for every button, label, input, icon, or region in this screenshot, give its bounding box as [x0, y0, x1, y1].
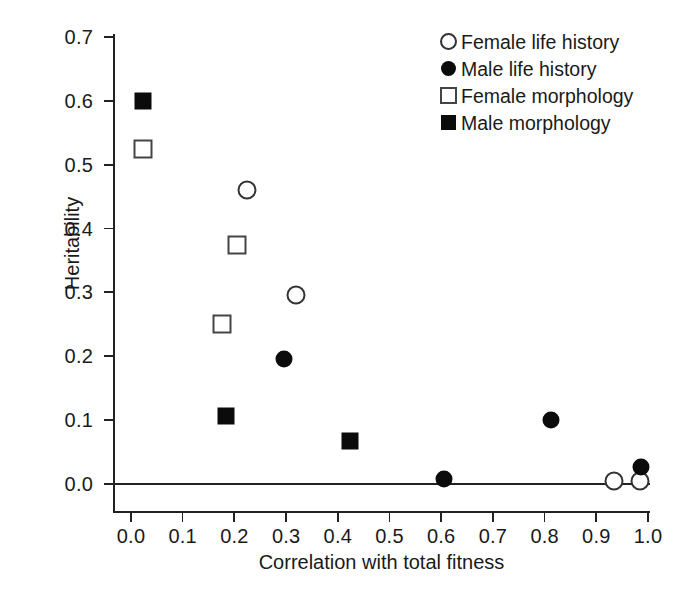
- square-open-icon: [435, 87, 461, 104]
- circle-open-icon-glyph: [440, 33, 457, 50]
- data-point-square-filled: [134, 92, 151, 109]
- square-filled-icon: [435, 115, 461, 130]
- data-point-circle-open: [286, 285, 305, 304]
- legend-item-label: Female morphology: [461, 86, 633, 106]
- legend-item[interactable]: Female morphology: [435, 82, 685, 109]
- legend-item-label: Male morphology: [461, 113, 611, 133]
- x-tick-label: 0.9: [569, 526, 623, 546]
- y-tick-label: 0.6: [47, 91, 93, 111]
- data-point-circle-filled: [276, 350, 293, 367]
- x-tick-label: 0.0: [104, 526, 158, 546]
- data-point-square-open: [133, 140, 152, 159]
- legend: Female life historyMale life historyFema…: [435, 28, 685, 136]
- legend-item-label: Female life history: [461, 32, 619, 52]
- x-tick-label: 0.1: [156, 526, 210, 546]
- y-axis-label: Heritability: [61, 164, 84, 324]
- data-point-circle-open: [604, 471, 623, 490]
- y-tick-mark: [104, 164, 113, 166]
- circle-open-icon: [435, 33, 461, 50]
- x-tick-label: 0.5: [363, 526, 417, 546]
- data-point-circle-filled: [435, 470, 452, 487]
- x-tick-mark: [492, 513, 494, 522]
- x-tick-mark: [595, 513, 597, 522]
- y-tick-mark: [104, 355, 113, 357]
- y-tick-mark: [104, 36, 113, 38]
- y-tick-mark: [104, 483, 113, 485]
- scatter-plot-figure: 0.00.10.20.30.40.50.60.7 0.00.10.20.30.4…: [0, 0, 695, 597]
- legend-item-label: Male life history: [461, 59, 596, 79]
- circle-filled-icon: [435, 61, 461, 76]
- y-tick-label: 0.0: [47, 474, 93, 494]
- data-point-circle-filled: [632, 458, 649, 475]
- y-tick-label: 0.7: [47, 27, 93, 47]
- circle-filled-icon-glyph: [441, 61, 456, 76]
- y-tick-mark: [104, 419, 113, 421]
- y-tick-label: 0.2: [47, 346, 93, 366]
- y-tick-mark: [104, 228, 113, 230]
- x-tick-label: 0.4: [311, 526, 365, 546]
- data-point-square-filled: [218, 408, 235, 425]
- data-point-circle-filled: [542, 412, 559, 429]
- x-tick-mark: [389, 513, 391, 522]
- x-tick-mark: [440, 513, 442, 522]
- x-tick-mark: [182, 513, 184, 522]
- data-point-square-open: [212, 315, 231, 334]
- data-point-square-open: [227, 235, 246, 254]
- legend-item[interactable]: Male morphology: [435, 109, 685, 136]
- legend-item[interactable]: Female life history: [435, 28, 685, 55]
- x-tick-mark: [130, 513, 132, 522]
- x-tick-mark: [544, 513, 546, 522]
- x-axis-line: [113, 511, 650, 513]
- x-tick-label: 0.6: [414, 526, 468, 546]
- x-tick-mark: [233, 513, 235, 522]
- legend-item[interactable]: Male life history: [435, 55, 685, 82]
- x-axis-label: Correlation with total fitness: [113, 551, 650, 574]
- x-tick-label: 0.7: [466, 526, 520, 546]
- data-point-circle-open: [237, 180, 256, 199]
- x-tick-mark: [647, 513, 649, 522]
- x-tick-mark: [285, 513, 287, 522]
- x-tick-label: 0.8: [518, 526, 572, 546]
- data-point-square-filled: [342, 433, 359, 450]
- x-tick-label: 1.0: [621, 526, 675, 546]
- y-tick-mark: [104, 291, 113, 293]
- y-tick-label: 0.1: [47, 410, 93, 430]
- x-tick-label: 0.3: [259, 526, 313, 546]
- x-tick-mark: [337, 513, 339, 522]
- x-tick-label: 0.2: [207, 526, 261, 546]
- square-filled-icon-glyph: [441, 115, 456, 130]
- square-open-icon-glyph: [440, 87, 457, 104]
- y-tick-mark: [104, 100, 113, 102]
